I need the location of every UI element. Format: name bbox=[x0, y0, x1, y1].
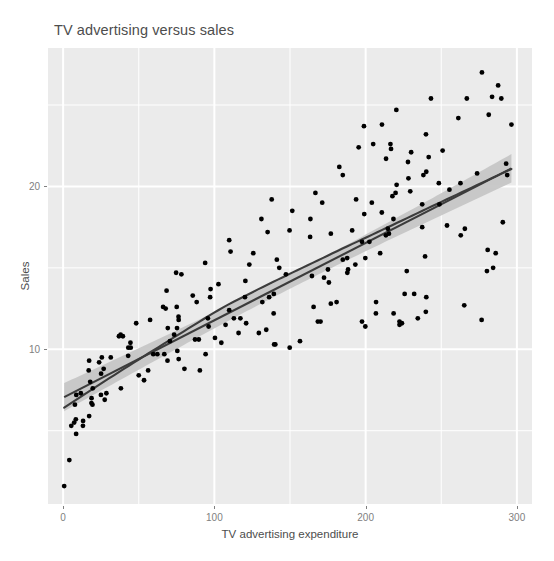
y-tick-mark bbox=[44, 186, 47, 187]
chart-root: TV advertising versus sales 1020 0100200… bbox=[0, 0, 554, 561]
y-tick-mark bbox=[44, 349, 47, 350]
x-tick-mark bbox=[366, 506, 367, 509]
plot-canvas bbox=[48, 48, 532, 504]
x-tick-label: 200 bbox=[357, 512, 374, 523]
plot-panel bbox=[48, 48, 532, 504]
x-tick-mark bbox=[517, 506, 518, 509]
x-tick-label: 100 bbox=[206, 512, 223, 523]
x-tick-label: 0 bbox=[60, 512, 66, 523]
chart-title: TV advertising versus sales bbox=[54, 22, 234, 38]
x-tick-mark bbox=[63, 506, 64, 509]
x-tick-mark bbox=[214, 506, 215, 509]
y-axis-title: Sales bbox=[19, 48, 33, 504]
x-tick-label: 300 bbox=[509, 512, 526, 523]
x-axis-title: TV advertising expenditure bbox=[48, 528, 532, 540]
